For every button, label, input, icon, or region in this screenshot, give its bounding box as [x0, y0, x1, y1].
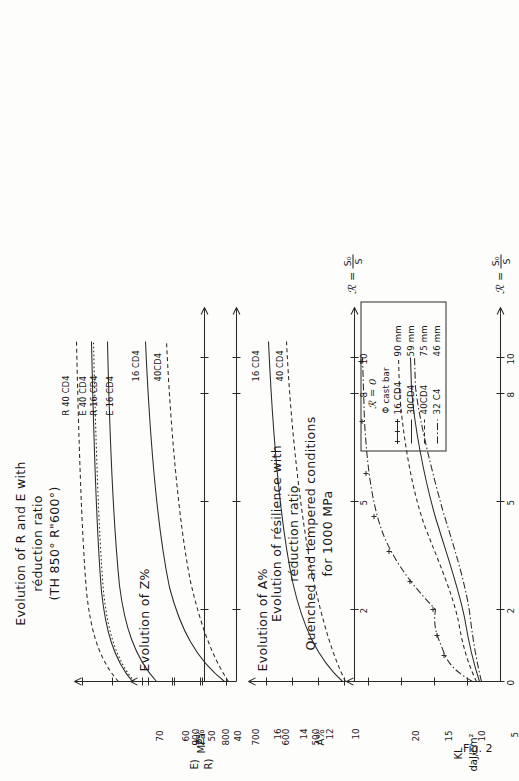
resilience-y-axis-label-line-1: KL	[452, 747, 463, 759]
resilience-x-axis-label-den: S	[501, 254, 511, 268]
a-curve-label-1: 40 CD4	[274, 350, 284, 381]
figure-page: Evolution of résilience with réduction r…	[0, 0, 519, 781]
legend-swatch-30cd4	[407, 418, 415, 444]
re-x-axis-label: ℛ = S₀ S	[342, 254, 362, 293]
figure-caption: Fig. 2	[463, 742, 493, 755]
resilience-x-axis-label: ℛ = S₀ S	[490, 254, 510, 293]
re-x-axis-label-prefix: ℛ =	[345, 271, 358, 293]
re-x-tick-8: 8	[358, 391, 368, 397]
legend-grade-3: 32 C4	[431, 388, 441, 414]
a-y-tick-12: 12	[324, 728, 334, 739]
re-x-tick-10: 10	[358, 353, 368, 364]
legend-size-2: 75 mm	[418, 325, 428, 356]
resilience-x-tick-8: 8	[505, 391, 515, 397]
resilience-y-tick-20: 20	[410, 730, 420, 741]
legend-size-0: 90 mm	[392, 325, 402, 356]
legend-grade-0: 16 CD4	[392, 381, 402, 414]
z-y-tick-60: 60	[180, 730, 190, 741]
a-y-tick-16: 16	[272, 728, 282, 739]
re-curve-label-3: E 16 CD4	[104, 375, 114, 415]
legend-grade-1: 30CD4	[405, 384, 415, 414]
re-title-line-2: réduction ratio	[29, 363, 44, 723]
legend-swatch-32c4	[433, 418, 441, 444]
a-percent-section: Evolution of A% A%	[240, 0, 390, 781]
legend-swatch-16cd4	[393, 418, 401, 444]
re-curve-label-2: R 16 CD4	[88, 375, 98, 415]
legend-size-3: 46 mm	[431, 325, 441, 356]
resilience-x-tick-0: 0	[505, 679, 515, 685]
resilience-y-tick-10: 10	[476, 730, 486, 741]
resilience-x-tick-5: 5	[505, 499, 515, 505]
resilience-x-tick-2: 2	[505, 607, 515, 613]
re-title-line-1: Evolution of R and E with	[12, 363, 27, 723]
re-x-axis-label-den: S	[353, 254, 363, 268]
legend-size-1: 59 mm	[405, 325, 415, 356]
z-plot	[124, 301, 240, 721]
re-curve-label-1: E 40 CD4	[77, 375, 87, 415]
z-y-tick-70: 70	[154, 730, 164, 741]
re-x-tick-5: 5	[358, 499, 368, 505]
a-y-tick-14: 14	[298, 728, 308, 739]
a-axis-label: A%	[314, 729, 325, 745]
a-y-tick-10: 10	[350, 728, 360, 739]
z-y-tick-50: 50	[206, 730, 216, 741]
a-curve-label-0: 16 CD4	[250, 350, 260, 381]
resilience-x-tick-10: 10	[505, 353, 515, 364]
re-x-axis-label-num: S₀	[342, 254, 353, 268]
re-curve-label-0: R 40 CD4	[60, 375, 70, 415]
z-curve-label-0: 16 CD4	[130, 350, 140, 381]
re-x-tick-2: 2	[358, 607, 368, 613]
re-title-line-3: (TH 850° R"600°)	[46, 363, 61, 723]
resilience-y-tick-15: 15	[443, 730, 453, 741]
resilience-x-axis-label-prefix: ℛ =	[493, 271, 506, 293]
z-percent-section: Evolution of Z% Z%	[118, 0, 258, 781]
resilience-y-tick-5: 5	[509, 731, 519, 737]
z-curve-label-1: 40CD4	[152, 352, 162, 381]
legend-grade-2: 40CD4	[418, 384, 428, 414]
z-axis-label: Z%	[194, 729, 205, 745]
rotated-figure-canvas: Evolution of résilience with réduction r…	[0, 0, 519, 781]
resilience-x-axis-label-num: S₀	[490, 254, 501, 268]
legend-swatch-40cd4	[420, 418, 428, 444]
